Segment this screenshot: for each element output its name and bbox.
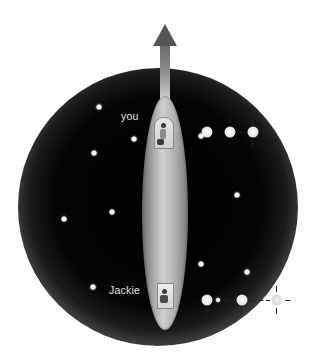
tick-mark bbox=[259, 300, 263, 301]
star bbox=[132, 137, 137, 142]
observer-you-desk bbox=[157, 139, 164, 145]
star bbox=[216, 298, 220, 302]
spaceship-diagram: you Jackie bbox=[0, 0, 316, 353]
light-pulse bbox=[272, 295, 283, 306]
observer-jackie-icon bbox=[162, 289, 167, 294]
light-pulse bbox=[237, 295, 248, 306]
arrow-up-icon bbox=[153, 24, 177, 46]
light-pulse bbox=[202, 127, 213, 138]
label-you: you bbox=[121, 110, 139, 122]
star bbox=[199, 262, 204, 267]
tick-mark bbox=[241, 286, 242, 292]
tick-mark bbox=[252, 118, 253, 124]
observer-jackie-body bbox=[160, 295, 168, 303]
label-jackie: Jackie bbox=[109, 284, 140, 296]
arrow-shaft bbox=[160, 45, 170, 103]
tick-mark bbox=[276, 286, 277, 292]
light-pulse bbox=[225, 127, 236, 138]
star bbox=[235, 193, 240, 198]
tick-mark bbox=[252, 140, 253, 146]
star bbox=[97, 105, 102, 110]
star bbox=[91, 285, 96, 290]
observer-you-icon bbox=[161, 123, 166, 128]
light-pulse bbox=[248, 127, 259, 138]
tick-mark bbox=[224, 300, 228, 301]
observer-you-body bbox=[160, 129, 166, 139]
tick-mark bbox=[261, 132, 266, 133]
tick-mark bbox=[241, 308, 242, 314]
star bbox=[62, 217, 67, 222]
tick-mark bbox=[206, 308, 207, 314]
tick-mark bbox=[231, 300, 235, 301]
star bbox=[245, 270, 250, 275]
star bbox=[110, 210, 115, 215]
tick-mark bbox=[266, 300, 270, 301]
tick-mark bbox=[276, 308, 277, 314]
tick-mark bbox=[229, 118, 230, 124]
tick-mark bbox=[285, 300, 290, 301]
tick-mark bbox=[250, 300, 255, 301]
tick-mark bbox=[238, 132, 243, 133]
light-pulse bbox=[202, 295, 213, 306]
star bbox=[92, 151, 97, 156]
